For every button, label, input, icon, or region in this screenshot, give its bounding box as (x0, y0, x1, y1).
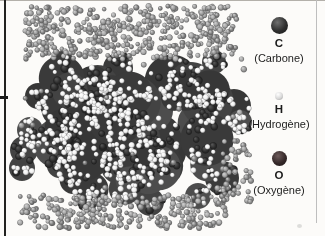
legend-item-hydrogen: H (Hydrogène) (238, 92, 320, 130)
figure-panel: C (Carbone) H (Hydrogène) O (Oxygène) (0, 0, 325, 236)
legend-item-oxygen: O (Oxygène) (238, 151, 320, 196)
legend-symbol-oxygen: O (275, 169, 284, 181)
legend-name-carbon: (Carbone) (254, 52, 304, 64)
carbon-sphere-icon (271, 17, 288, 34)
legend-symbol-carbon: C (275, 37, 283, 49)
left-arrow-tick (0, 96, 8, 99)
legend-name-oxygen: (Oxygène) (253, 184, 304, 196)
legend-item-carbon: C (Carbone) (238, 17, 320, 64)
left-border-line (4, 0, 6, 236)
legend: C (Carbone) H (Hydrogène) O (Oxygène) (238, 0, 320, 236)
legend-symbol-hydrogen: H (275, 103, 283, 115)
oxygen-sphere-icon (272, 151, 287, 166)
hydrogen-sphere-icon (275, 92, 283, 100)
scan-artifact (297, 224, 302, 228)
legend-name-hydrogen: (Hydrogène) (248, 118, 309, 130)
